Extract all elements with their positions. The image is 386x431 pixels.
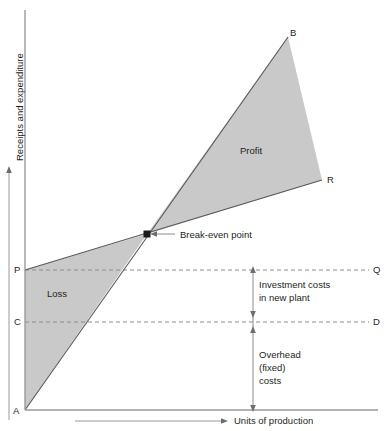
y-axis-arrowhead-icon (6, 166, 12, 173)
point-label-q: Q (373, 264, 381, 276)
point-label-a: A (13, 405, 20, 417)
diagram-canvas (0, 0, 386, 431)
point-label-p: P (14, 264, 21, 276)
profit-region-shape (147, 37, 322, 234)
revenue-line (25, 37, 288, 410)
point-label-b: B (290, 27, 297, 39)
cost-line (25, 180, 322, 270)
x-axis-title: Units of production (234, 415, 313, 427)
point-label-c: C (14, 316, 21, 328)
overhead-costs-label-line1: Overhead (259, 348, 301, 361)
profit-region-label: Profit (240, 145, 262, 157)
break-even-point-label: Break-even point (180, 228, 252, 241)
point-label-d: D (373, 316, 380, 328)
overhead-costs-label-line3: costs (259, 374, 281, 387)
investment-costs-label-line2: in new plant (259, 291, 310, 304)
overhead-costs-label-line2: (fixed) (259, 361, 285, 374)
cost-bracket-arrowhead-mid-upper-icon (250, 311, 256, 318)
loss-region-label: Loss (47, 288, 67, 300)
x-axis-arrowhead-icon (221, 418, 228, 424)
break-even-chart: Receipts and expenditure Units of produc… (0, 0, 386, 431)
cost-bracket-arrowhead-mid-lower-icon (250, 326, 256, 333)
point-label-r: R (327, 174, 334, 186)
cost-bracket-arrowhead-bottom-icon (250, 405, 256, 412)
investment-costs-label-line1: Investment costs (259, 278, 330, 291)
break-even-marker (144, 231, 151, 238)
y-axis-title: Receipts and expenditure (14, 53, 25, 161)
